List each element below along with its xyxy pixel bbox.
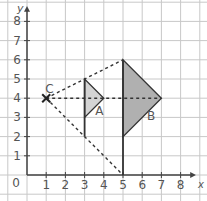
- x-tick-label: 7: [158, 178, 166, 192]
- x-tick-label: 4: [100, 178, 108, 192]
- y-axis-label: y: [16, 2, 24, 15]
- x-tick-label: 3: [81, 178, 89, 192]
- y-tick-label: 8: [13, 14, 21, 28]
- grid-lines: [0, 0, 207, 201]
- y-tick-label: 7: [13, 34, 21, 48]
- x-tick-label: 1: [42, 178, 50, 192]
- y-tick-label: 6: [13, 53, 21, 67]
- x-tick-label: 6: [138, 178, 146, 192]
- x-tick-label: 8: [177, 178, 185, 192]
- y-tick-label: 5: [13, 72, 21, 86]
- center-label: C: [45, 82, 53, 96]
- x-axis-arrow-icon: [190, 172, 196, 178]
- y-axis-arrow-icon: [24, 6, 30, 12]
- x-tick-label: 5: [119, 178, 127, 192]
- x-axis-label: x: [197, 179, 204, 190]
- y-tick-label: 2: [13, 130, 21, 144]
- origin-label: 0: [12, 176, 20, 190]
- y-tick-label: 4: [13, 91, 21, 105]
- labels: 12345678123456780xyCAB: [12, 2, 204, 192]
- x-tick-label: 2: [62, 178, 70, 192]
- shape-b-label: B: [147, 109, 155, 123]
- y-tick-label: 3: [13, 110, 21, 124]
- shape-a-label: A: [95, 104, 104, 118]
- y-tick-label: 1: [13, 149, 21, 163]
- coordinate-grid: 12345678123456780xyCAB: [0, 0, 207, 201]
